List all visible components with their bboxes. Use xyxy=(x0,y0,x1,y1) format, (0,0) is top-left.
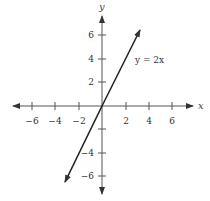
y-tick-label: −6 xyxy=(81,171,95,181)
y-tick-label: −4 xyxy=(81,148,95,158)
x-tick-label: −4 xyxy=(48,116,62,126)
y-tick-label: 2 xyxy=(88,77,94,87)
x-tick-label: 6 xyxy=(169,116,175,126)
line-y-equals-2x xyxy=(102,30,140,106)
x-tick-label: −6 xyxy=(25,116,39,126)
x-tick-label: −2 xyxy=(72,116,85,126)
y-tick-label: 4 xyxy=(88,54,94,64)
equation-label: y = 2x xyxy=(134,55,164,65)
x-tick-label: 2 xyxy=(123,116,129,126)
x-tick-label: 4 xyxy=(146,116,152,126)
coordinate-plane: −6 −4 −2 2 4 6 6 4 2 −4 −6 x y y = 2x xyxy=(0,0,210,201)
y-axis-label: y xyxy=(98,1,105,12)
x-axis-label: x xyxy=(198,100,204,111)
y-tick-label: 6 xyxy=(88,30,94,40)
